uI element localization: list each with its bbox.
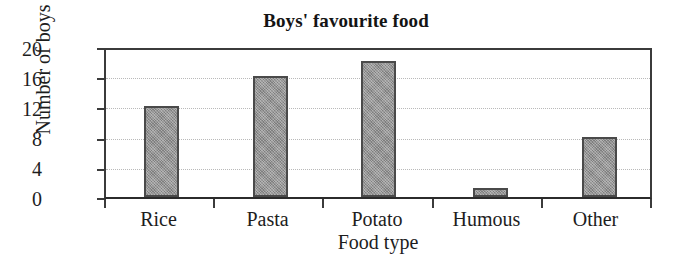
x-tick-mark-1 xyxy=(213,199,215,208)
x-tick-label-humous: Humous xyxy=(432,208,541,231)
bar-chart-figure: Boys' favourite food Number of boys 20 1… xyxy=(0,0,680,271)
x-tick-mark-5 xyxy=(650,199,652,208)
x-tick-mark-0 xyxy=(104,199,106,208)
chart-title: Boys' favourite food xyxy=(0,10,680,32)
x-tick-label-potato: Potato xyxy=(322,208,432,231)
x-tick-mark-2 xyxy=(322,199,324,208)
y-tick-label-4: 4 xyxy=(6,159,42,179)
y-tick-label-20: 20 xyxy=(6,39,42,59)
bar-humous xyxy=(473,188,508,198)
bar-rice xyxy=(144,106,179,197)
y-tick-label-12: 12 xyxy=(6,99,42,119)
y-tick-label-8: 8 xyxy=(6,129,42,149)
bar-other xyxy=(582,137,617,197)
x-tick-mark-3 xyxy=(432,199,434,208)
x-tick-label-rice: Rice xyxy=(104,208,213,231)
x-tick-label-other: Other xyxy=(541,208,650,231)
chart-title-text: Boys' favourite food xyxy=(263,10,429,32)
bar-potato xyxy=(361,61,396,197)
bar-pasta xyxy=(253,76,288,197)
y-tick-label-16: 16 xyxy=(6,69,42,89)
x-tick-mark-4 xyxy=(541,199,543,208)
y-tick-label-0: 0 xyxy=(6,189,42,209)
x-axis-title: Food type xyxy=(104,231,652,254)
plot-area xyxy=(104,48,652,199)
x-tick-label-pasta: Pasta xyxy=(213,208,322,231)
